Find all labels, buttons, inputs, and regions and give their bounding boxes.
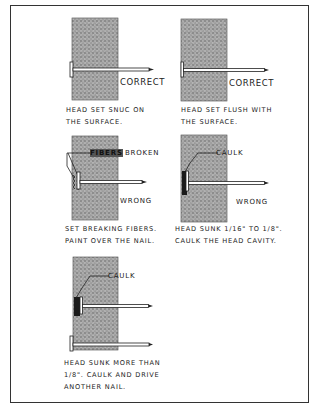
caption-line: PAINT OVER THE NAIL. bbox=[65, 235, 157, 247]
caption-line: SET BREAKING FIBERS. bbox=[65, 223, 157, 235]
caption-line: THE SURFACE. bbox=[66, 116, 145, 128]
caption: SET BREAKING FIBERS. PAINT OVER THE NAIL… bbox=[65, 223, 157, 247]
caption: HEAD SET SNUC ON THE SURFACE. bbox=[66, 104, 145, 128]
status-label-wrong: WRONG bbox=[236, 198, 268, 206]
status-label-wrong: WRONG bbox=[120, 197, 152, 205]
caption: HEAD SET FLUSH WITH THE SURFACE. bbox=[181, 104, 272, 128]
callout-broken: BROKEN bbox=[125, 149, 159, 157]
callout-caulk: CAULK bbox=[216, 149, 243, 157]
caption-line: 1/8". CAULK AND DRIVE bbox=[64, 369, 161, 381]
caption-line: HEAD SUNK 1/16" TO 1/8". bbox=[175, 223, 282, 235]
caption-line: CAULK THE HEAD CAVITY. bbox=[175, 235, 282, 247]
caption-line: THE SURFACE. bbox=[181, 116, 272, 128]
panel-2-diagram bbox=[181, 19, 269, 101]
caption-line: ANOTHER NAIL. bbox=[64, 381, 161, 393]
status-label-correct: CORRECT bbox=[120, 77, 165, 87]
caption: HEAD SUNK MORE THAN 1/8". CAULK AND DRIV… bbox=[64, 357, 161, 393]
nailing-diagram bbox=[0, 0, 314, 412]
caption-line: HEAD SET SNUC ON bbox=[66, 104, 145, 116]
caption: HEAD SUNK 1/16" TO 1/8". CAULK THE HEAD … bbox=[175, 223, 282, 247]
caulk-fill bbox=[74, 297, 80, 316]
caption-line: HEAD SUNK MORE THAN bbox=[64, 357, 161, 369]
status-label-correct: CORRECT bbox=[229, 78, 274, 88]
caption-line: HEAD SET FLUSH WITH bbox=[181, 104, 272, 116]
callout-fibers: FIBERS bbox=[90, 149, 123, 157]
callout-caulk: CAULK bbox=[108, 272, 135, 280]
panel-1-diagram bbox=[70, 18, 154, 100]
